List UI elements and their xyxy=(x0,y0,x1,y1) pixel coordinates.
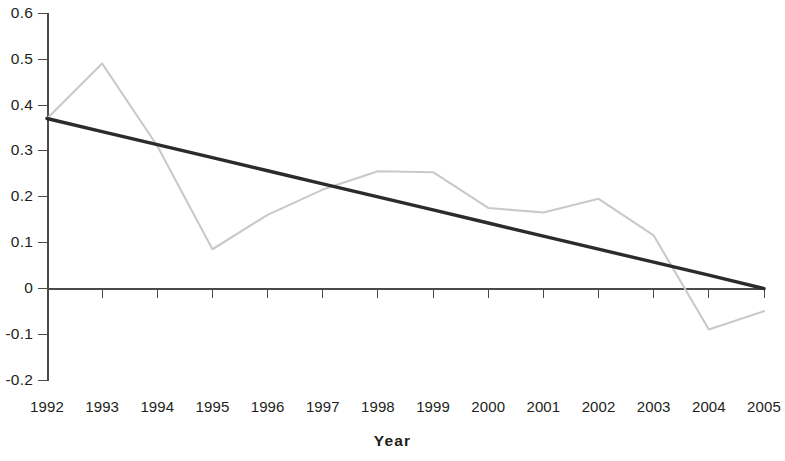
x-tick-label: 2005 xyxy=(736,398,785,415)
x-axis-title: Year xyxy=(0,432,785,450)
x-tick-label: 1998 xyxy=(350,398,406,415)
x-tick-label: 2002 xyxy=(571,398,627,415)
x-tick-label: 1999 xyxy=(405,398,461,415)
x-tick-label: 1996 xyxy=(240,398,296,415)
x-tick-label: 1997 xyxy=(295,398,351,415)
x-tick-label: 1995 xyxy=(184,398,240,415)
x-tick-label: 2003 xyxy=(626,398,682,415)
x-tick-label: 1993 xyxy=(74,398,130,415)
x-tick-label: 1994 xyxy=(129,398,185,415)
plot-area: 0.6 0.5 0.4 0.3 0.2 0.1 0 -0.1 -0.2 1992… xyxy=(0,0,785,461)
trend-series-line xyxy=(47,119,764,289)
x-tick-label: 1992 xyxy=(19,398,75,415)
x-tick-label: 2001 xyxy=(515,398,571,415)
x-tick-label: 2000 xyxy=(460,398,516,415)
data-series-line xyxy=(47,63,764,329)
x-tick-label: 2004 xyxy=(681,398,737,415)
line-chart: 0.6 0.5 0.4 0.3 0.2 0.1 0 -0.1 -0.2 1992… xyxy=(0,0,785,461)
series-layer xyxy=(0,0,785,461)
